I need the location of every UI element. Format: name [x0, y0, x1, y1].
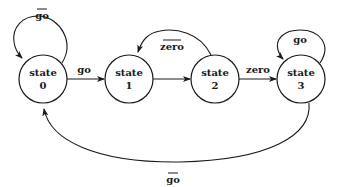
edge-label: go [166, 174, 180, 185]
state-3: state 3 [277, 55, 325, 103]
edge-label: zero [246, 64, 270, 75]
state-0: state 0 [19, 55, 67, 103]
transition-s3-s0: go [44, 103, 309, 185]
edge-label: go [77, 64, 91, 75]
edge-label: go [35, 10, 49, 21]
state-2: state 2 [191, 55, 239, 103]
transition-s2-s1: zero [138, 30, 211, 55]
state-label: state [29, 67, 57, 78]
edge-label: zero [160, 41, 184, 52]
state-circle [191, 55, 239, 103]
edge-label: go [293, 34, 307, 45]
state-label: state [115, 67, 143, 78]
state-number: 1 [126, 80, 133, 91]
state-number: 0 [40, 80, 47, 91]
state-label: state [201, 67, 229, 78]
state-number: 2 [212, 80, 219, 91]
transition-s2-s3: zero [239, 64, 276, 79]
state-1: state 1 [105, 55, 153, 103]
state-number: 3 [298, 80, 305, 91]
transition-s0-s1: go [67, 64, 104, 79]
arrow [44, 103, 309, 162]
state-circle [105, 55, 153, 103]
state-diagram: go go zero zero go go state 0 state 1 [0, 0, 344, 187]
state-circle [19, 55, 67, 103]
state-label: state [287, 67, 315, 78]
state-circle [277, 55, 325, 103]
